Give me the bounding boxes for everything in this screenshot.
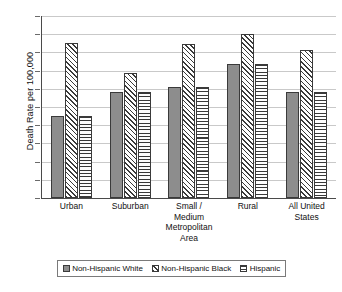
legend-label: Hispanic bbox=[250, 264, 281, 273]
x-axis-category-label: Urban bbox=[42, 201, 101, 243]
legend-swatch-icon bbox=[240, 265, 247, 272]
y-axis-tick-mark bbox=[35, 107, 40, 108]
legend-label: Non-Hispanic White bbox=[72, 264, 143, 273]
bar bbox=[110, 92, 123, 198]
legend-swatch-icon bbox=[63, 265, 70, 272]
x-axis-category-label: All United States bbox=[277, 201, 336, 243]
bar-group bbox=[218, 16, 277, 198]
y-axis-tick-mark bbox=[35, 52, 40, 53]
y-axis-tick-mark bbox=[35, 89, 40, 90]
bars-layer bbox=[42, 16, 336, 198]
bar bbox=[255, 64, 268, 198]
bar bbox=[314, 92, 327, 198]
legend-entry[interactable]: Non-Hispanic White bbox=[63, 264, 143, 273]
bar bbox=[79, 116, 92, 198]
bar bbox=[196, 87, 209, 198]
y-axis-tick-mark bbox=[35, 162, 40, 163]
bar-group bbox=[42, 16, 101, 198]
bar-group bbox=[160, 16, 219, 198]
bar bbox=[286, 92, 299, 198]
x-axis-category-labels: UrbanSuburbanSmall / Medium Metropolitan… bbox=[42, 201, 336, 243]
x-axis-category-label: Small / Medium Metropolitan Area bbox=[160, 201, 219, 243]
bar bbox=[300, 50, 313, 198]
x-axis-category-label: Rural bbox=[218, 201, 277, 243]
bar bbox=[241, 34, 254, 198]
y-axis-tick-mark bbox=[35, 34, 40, 35]
legend-swatch-icon bbox=[152, 265, 159, 272]
bar-group bbox=[101, 16, 160, 198]
y-axis-title: Death Rate per 100,000 bbox=[25, 11, 35, 191]
y-axis-tick-mark bbox=[35, 198, 40, 199]
x-axis-category-label: Suburban bbox=[101, 201, 160, 243]
y-axis-tick-mark bbox=[35, 16, 40, 17]
bar-chart-figure: Death Rate per 100,000 02040608010012014… bbox=[0, 0, 342, 292]
bar bbox=[182, 44, 195, 198]
bar bbox=[124, 73, 137, 198]
legend-entry[interactable]: Non-Hispanic Black bbox=[152, 264, 231, 273]
bar bbox=[51, 116, 64, 198]
y-axis-tick-mark bbox=[35, 125, 40, 126]
legend-label: Non-Hispanic Black bbox=[161, 264, 231, 273]
y-axis-tick-mark bbox=[35, 71, 40, 72]
bar bbox=[227, 64, 240, 198]
bar bbox=[168, 87, 181, 198]
bar bbox=[65, 43, 78, 198]
bar bbox=[138, 92, 151, 198]
plot-area bbox=[41, 16, 336, 199]
chart-legend: Non-Hispanic WhiteNon-Hispanic BlackHisp… bbox=[57, 260, 286, 277]
bar-group bbox=[277, 16, 336, 198]
legend-entry[interactable]: Hispanic bbox=[240, 264, 280, 273]
y-axis-tick-mark bbox=[35, 143, 40, 144]
y-axis-tick-mark bbox=[35, 180, 40, 181]
